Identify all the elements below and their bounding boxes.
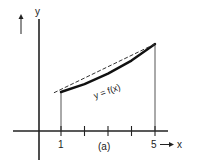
x-tick-label-5: 5 xyxy=(151,139,157,150)
curve-label: y = f(x) xyxy=(92,82,122,101)
x-axis-label: x xyxy=(177,139,182,150)
figure-caption: (a) xyxy=(98,141,110,152)
up-arrow-icon xyxy=(19,14,24,34)
figure-canvas: y y = f(x) 1 5 x (a) xyxy=(0,0,199,165)
x-tick-label-1: 1 xyxy=(58,139,64,150)
x-arrow-icon xyxy=(160,142,174,147)
chord-line xyxy=(54,44,155,93)
y-axis-label: y xyxy=(35,6,40,17)
